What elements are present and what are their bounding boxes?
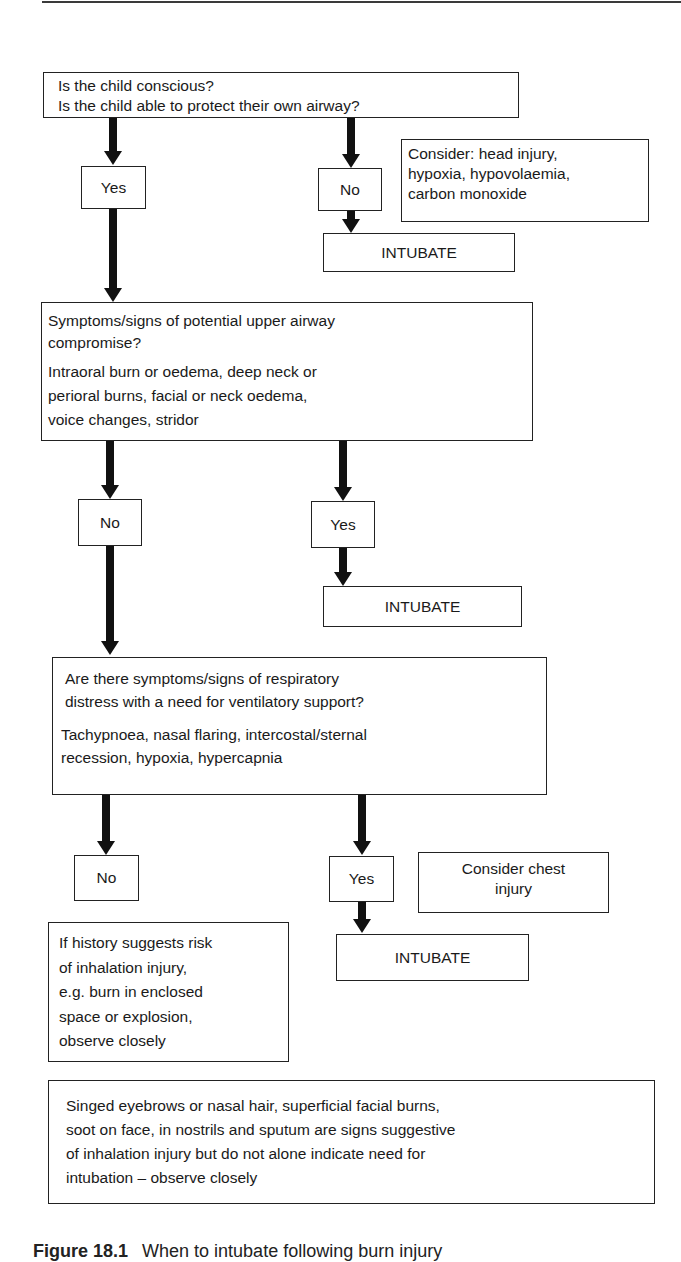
detail-line: recession, hypoxia, hypercapnia bbox=[61, 746, 534, 769]
detail-line: Intraoral burn or oedema, deep neck or bbox=[48, 360, 526, 384]
arrow-down-icon bbox=[358, 795, 366, 842]
arrow-down-icon bbox=[347, 118, 355, 155]
q1-no-label: No bbox=[318, 168, 382, 211]
inhalation-signs-footnote: Singed eyebrows or nasal hair, superfici… bbox=[48, 1080, 655, 1204]
detail-line: voice changes, stridor bbox=[48, 408, 526, 432]
arrow-down-icon bbox=[109, 118, 117, 152]
q1-intubate-box: INTUBATE bbox=[323, 233, 515, 272]
figure-caption-text: When to intubate following burn injury bbox=[142, 1241, 442, 1261]
figure-caption: Figure 18.1When to intubate following bu… bbox=[33, 1240, 442, 1262]
arrow-down-icon bbox=[339, 441, 347, 488]
q2-no-label: No bbox=[78, 499, 142, 546]
inhalation-history-note: If history suggests risk of inhalation i… bbox=[48, 922, 289, 1062]
question-line: Are there symptoms/signs of respiratory bbox=[65, 667, 534, 690]
details: Tachypnoea, nasal flaring, intercostal/s… bbox=[61, 723, 534, 769]
detail-line: perioral burns, facial or neck oedema, bbox=[48, 384, 526, 408]
top-rule bbox=[42, 1, 681, 3]
details: Intraoral burn or oedema, deep neck or p… bbox=[48, 360, 526, 432]
question-consciousness-box: Is the child conscious? Is the child abl… bbox=[43, 72, 519, 118]
arrow-down-icon bbox=[358, 902, 366, 920]
q1-yes-label: Yes bbox=[81, 166, 146, 209]
figure-label: Figure 18.1 bbox=[33, 1241, 128, 1261]
arrow-down-icon bbox=[102, 795, 110, 842]
question-line: distress with a need for ventilatory sup… bbox=[65, 690, 534, 713]
arrow-down-icon bbox=[109, 209, 117, 289]
arrow-down-icon bbox=[347, 211, 355, 220]
q2-yes-label: Yes bbox=[311, 501, 375, 548]
question-upper-airway-box: Symptoms/signs of potential upper airway… bbox=[41, 302, 533, 441]
question-line: Is the child conscious? bbox=[58, 76, 504, 96]
arrow-down-icon bbox=[339, 548, 347, 573]
q3-no-label: No bbox=[74, 855, 139, 901]
q3-yes-label: Yes bbox=[329, 856, 394, 902]
arrow-down-icon bbox=[106, 546, 114, 642]
question-line: Symptoms/signs of potential upper airway bbox=[48, 310, 526, 332]
arrow-down-icon bbox=[106, 441, 114, 486]
question-line: compromise? bbox=[48, 332, 526, 354]
question-line: Is the child able to protect their own a… bbox=[58, 96, 504, 116]
q3-consider-chest-note: Consider chest injury bbox=[418, 852, 609, 913]
q1-consider-note: Consider: head injury, hypoxia, hypovola… bbox=[401, 139, 649, 222]
q2-intubate-box: INTUBATE bbox=[323, 586, 522, 627]
q3-intubate-box: INTUBATE bbox=[336, 934, 529, 981]
detail-line: Tachypnoea, nasal flaring, intercostal/s… bbox=[61, 723, 534, 746]
question-respiratory-distress-box: Are there symptoms/signs of respiratory … bbox=[52, 657, 547, 795]
